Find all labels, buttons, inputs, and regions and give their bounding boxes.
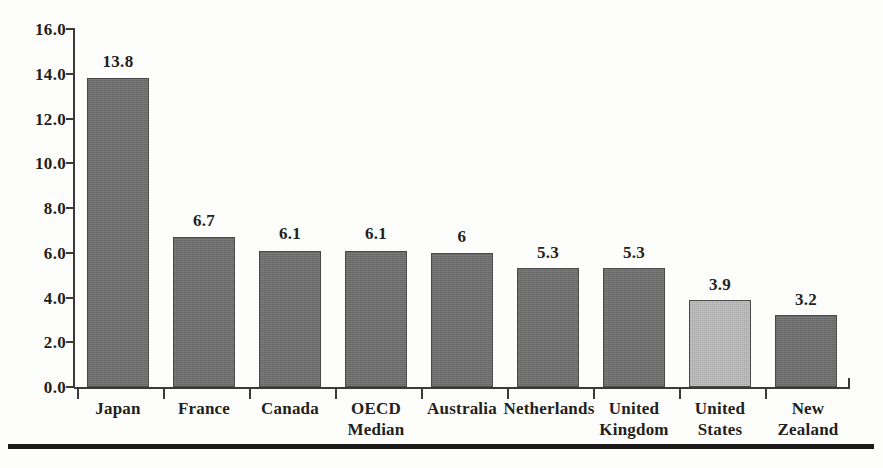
x-category-label-united-states-line2: States bbox=[680, 419, 760, 440]
x-category-label-netherlands: Netherlands bbox=[499, 398, 599, 419]
bar-value-france: 6.7 bbox=[173, 212, 235, 229]
bar-oecd-median[interactable] bbox=[345, 251, 407, 387]
bar-value-netherlands: 5.3 bbox=[517, 244, 579, 261]
y-tick-label-12: 12.0 bbox=[0, 110, 66, 127]
bar-australia[interactable] bbox=[431, 253, 493, 387]
bar-france[interactable] bbox=[173, 237, 235, 387]
bar-new-zealand[interactable] bbox=[775, 315, 837, 387]
x-category-label-new-zealand: New Zealand bbox=[766, 398, 850, 441]
x-category-label-france-line1: France bbox=[164, 398, 244, 419]
bar-united-kingdom[interactable] bbox=[603, 268, 665, 387]
x-category-label-australia-line1: Australia bbox=[418, 398, 506, 419]
x-category-label-united-kingdom-line1: United bbox=[594, 398, 674, 419]
x-category-label-canada-line1: Canada bbox=[250, 398, 330, 419]
x-category-label-japan-line1: Japan bbox=[78, 398, 158, 419]
x-category-label-canada: Canada bbox=[250, 398, 330, 419]
x-category-label-france: France bbox=[164, 398, 244, 419]
y-tick-label-8: 8.0 bbox=[0, 200, 66, 217]
plot-area bbox=[74, 29, 849, 387]
bar-canada[interactable] bbox=[259, 251, 321, 387]
x-category-label-australia: Australia bbox=[418, 398, 506, 419]
bar-netherlands[interactable] bbox=[517, 268, 579, 387]
x-category-label-netherlands-line1: Netherlands bbox=[499, 398, 599, 419]
x-category-label-japan: Japan bbox=[78, 398, 158, 419]
x-category-label-united-states: United States bbox=[680, 398, 760, 441]
x-category-label-united-kingdom-line2: Kingdom bbox=[594, 419, 674, 440]
bar-united-states[interactable] bbox=[689, 300, 751, 387]
bar-value-united-states: 3.9 bbox=[689, 276, 751, 293]
bar-chart: 16.0 14.0 12.0 10.0 8.0 6.0 4.0 2.0 0.0 bbox=[0, 0, 883, 468]
x-category-label-united-states-line1: United bbox=[680, 398, 760, 419]
x-category-label-oecd-median-line1: OECD bbox=[336, 398, 416, 419]
y-tick-label-2: 2.0 bbox=[0, 334, 66, 351]
bar-japan[interactable] bbox=[87, 78, 149, 387]
bar-value-oecd-median: 6.1 bbox=[345, 225, 407, 242]
y-tick-label-10: 10.0 bbox=[0, 155, 66, 172]
bar-value-united-kingdom: 5.3 bbox=[603, 244, 665, 261]
bar-value-new-zealand: 3.2 bbox=[775, 291, 837, 308]
bar-value-canada: 6.1 bbox=[259, 225, 321, 242]
x-axis-line bbox=[74, 387, 850, 389]
x-category-label-oecd-median: OECD Median bbox=[336, 398, 416, 441]
x-category-label-new-zealand-line2: Zealand bbox=[766, 419, 850, 440]
y-tick-label-14: 14.0 bbox=[0, 65, 66, 82]
bottom-horizontal-rule bbox=[8, 444, 874, 449]
bar-value-japan: 13.8 bbox=[87, 53, 149, 70]
bar-value-australia: 6 bbox=[431, 228, 493, 245]
x-category-label-united-kingdom: United Kingdom bbox=[594, 398, 674, 441]
y-tick-label-0: 0.0 bbox=[0, 379, 66, 396]
x-category-label-new-zealand-line1: New bbox=[766, 398, 850, 419]
y-tick-label-4: 4.0 bbox=[0, 289, 66, 306]
y-tick-label-16: 16.0 bbox=[0, 21, 66, 38]
x-category-label-oecd-median-line2: Median bbox=[336, 419, 416, 440]
y-tick-label-6: 6.0 bbox=[0, 244, 66, 261]
